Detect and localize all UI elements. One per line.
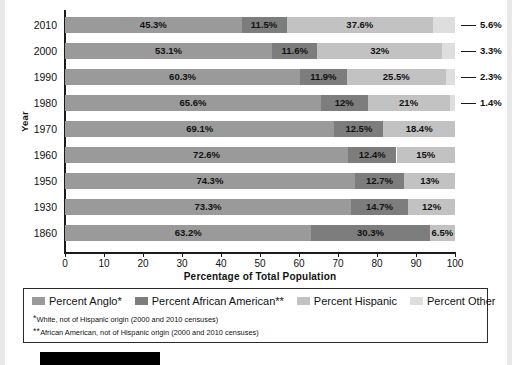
- x-axis-tick: [65, 252, 66, 257]
- x-axis-tick-label: 0: [50, 258, 80, 269]
- stacked-bar: 60.3%11.9%25.5%2.3%: [65, 69, 455, 85]
- stacked-bar-chart: Year 201045.3%11.5%37.6%5.6%200053.1%11.…: [0, 0, 512, 365]
- bar-segment: [65, 17, 242, 33]
- footnote: *White, not of Hispanic origin (2000 and…: [33, 313, 473, 326]
- callout-value-text: 1.4%: [480, 97, 502, 108]
- bar-segment: [300, 69, 346, 85]
- bar-segment: [287, 17, 434, 33]
- bottom-black-bar: [40, 352, 160, 365]
- legend-item[interactable]: Percent Anglo*: [32, 295, 122, 307]
- bar-segment: [65, 95, 321, 111]
- chart-row: 196072.6%12.4%15%: [65, 142, 455, 168]
- x-axis-tick: [221, 252, 222, 257]
- x-axis-tick-label: 20: [128, 258, 158, 269]
- legend-swatch-icon: [297, 297, 310, 305]
- stacked-bar: 53.1%11.6%32%3.3%: [65, 43, 455, 59]
- chart-row: 200053.1%11.6%32%3.3%: [65, 38, 455, 64]
- legend-item[interactable]: Percent Hispanic: [297, 295, 397, 307]
- footnote-text: White, not of Hispanic origin (2000 and …: [37, 315, 219, 324]
- bar-segment: [65, 147, 348, 163]
- legend-footnotes: *White, not of Hispanic origin (2000 and…: [33, 313, 473, 338]
- x-axis-tick-label: 10: [89, 258, 119, 269]
- y-axis-tick-label: 1980: [5, 90, 57, 116]
- bar-segment: [442, 43, 455, 59]
- legend-item[interactable]: Percent Other: [410, 295, 495, 307]
- y-axis-tick-label: 1930: [5, 194, 57, 220]
- x-axis-tick-label: 80: [362, 258, 392, 269]
- y-axis-tick-label: 2000: [5, 38, 57, 64]
- legend-swatch-icon: [410, 297, 423, 305]
- bar-segment: [65, 69, 300, 85]
- bar-segment: [65, 199, 351, 215]
- x-axis-tick-label: 90: [401, 258, 431, 269]
- bar-segment: [348, 147, 396, 163]
- bar-segment: [65, 43, 272, 59]
- x-axis-title: Percentage of Total Population: [64, 271, 456, 282]
- x-axis-tick-label: 60: [284, 258, 314, 269]
- segment-callout-label: 5.6%: [461, 17, 502, 33]
- legend-label: Percent Other: [427, 295, 495, 307]
- callout-value-text: 3.3%: [480, 45, 502, 56]
- legend-swatch-icon: [135, 297, 148, 305]
- x-axis-tick: [260, 252, 261, 257]
- x-axis-tick-label: 40: [206, 258, 236, 269]
- bar-segment: [408, 199, 455, 215]
- bar-segment: [450, 95, 455, 111]
- legend-items: Percent Anglo*Percent African American**…: [32, 293, 482, 309]
- segment-callout-label: 3.3%: [461, 43, 502, 59]
- chart-row: 198065.6%12%21%1.4%: [65, 90, 455, 116]
- bar-segment: [397, 147, 456, 163]
- stacked-bar: 45.3%11.5%37.6%5.6%: [65, 17, 455, 33]
- y-axis-tick-label: 1950: [5, 168, 57, 194]
- stacked-bar: 65.6%12%21%1.4%: [65, 95, 455, 111]
- x-axis-tick: [299, 252, 300, 257]
- bar-segment: [65, 225, 311, 241]
- legend-item[interactable]: Percent African American**: [135, 295, 284, 307]
- bar-segment: [321, 95, 368, 111]
- stacked-bar: 74.3%12.7%13%: [65, 173, 455, 189]
- chart-row: 193073.3%14.7%12%: [65, 194, 455, 220]
- stacked-bar: 73.3%14.7%12%: [65, 199, 455, 215]
- x-axis-tick-label: 30: [167, 258, 197, 269]
- chart-row: 195074.3%12.7%13%: [65, 168, 455, 194]
- chart-row: 199060.3%11.9%25.5%2.3%: [65, 64, 455, 90]
- bar-segment: [368, 95, 450, 111]
- x-axis-tick: [377, 252, 378, 257]
- legend-label: Percent Hispanic: [314, 295, 397, 307]
- legend-label: Percent African American**: [152, 295, 284, 307]
- x-axis-tick-label: 100: [440, 258, 470, 269]
- callout-value-text: 5.6%: [480, 19, 502, 30]
- chart-row: 197069.1%12.5%18.4%: [65, 116, 455, 142]
- bar-segment: [65, 121, 334, 137]
- y-axis-tick-label: 1970: [5, 116, 57, 142]
- x-axis-tick-label: 70: [323, 258, 353, 269]
- callout-value-text: 2.3%: [480, 71, 502, 82]
- footnote-text: African American, not of Hispanic origin…: [40, 328, 259, 337]
- bar-segment: [272, 43, 317, 59]
- page-right-edge: [507, 0, 512, 365]
- callout-leader-line: [461, 77, 476, 78]
- legend-swatch-icon: [32, 297, 45, 305]
- x-axis-tick: [104, 252, 105, 257]
- bar-segment: [334, 121, 383, 137]
- segment-callout-label: 2.3%: [461, 69, 502, 85]
- footnote: **African American, not of Hispanic orig…: [33, 326, 473, 339]
- y-axis-tick-label: 1990: [5, 64, 57, 90]
- x-axis-tick: [455, 252, 456, 257]
- stacked-bar: 63.2%30.3%6.5%: [65, 225, 455, 241]
- x-axis-tick-label: 50: [245, 258, 275, 269]
- bar-segment: [351, 199, 408, 215]
- y-axis-tick-label: 2010: [5, 12, 57, 38]
- x-axis-tick: [143, 252, 144, 257]
- bar-segment: [311, 225, 429, 241]
- legend-label: Percent Anglo*: [49, 295, 122, 307]
- bar-segment: [446, 69, 455, 85]
- callout-leader-line: [461, 25, 476, 26]
- bar-segment: [347, 69, 446, 85]
- bar-segment: [383, 121, 455, 137]
- x-axis-tick: [182, 252, 183, 257]
- bar-segment: [65, 173, 355, 189]
- bar-segment: [317, 43, 442, 59]
- x-axis-tick: [338, 252, 339, 257]
- y-axis-tick-label: 1960: [5, 142, 57, 168]
